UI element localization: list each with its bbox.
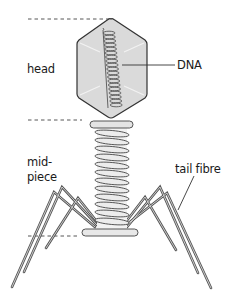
collar — [90, 121, 133, 128]
tail-fibre-pointer-line — [178, 176, 194, 210]
dna-label: DNA — [177, 58, 202, 72]
midpiece-label-line2: piece — [27, 170, 57, 184]
bacteriophage-diagram — [0, 0, 232, 303]
midpiece-label-line1: mid- — [27, 155, 52, 169]
head-capsid — [77, 19, 147, 118]
midpiece-sheath — [95, 127, 129, 229]
head-label: head — [27, 62, 55, 76]
base-plate — [82, 229, 138, 236]
tail-fibre-label: tail fibre — [175, 162, 221, 176]
